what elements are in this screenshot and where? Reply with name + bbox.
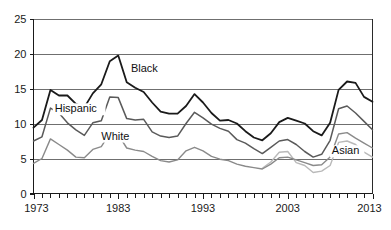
y-tick-labels: 0510152025 (14, 13, 26, 200)
y-tick-label-20: 20 (14, 48, 26, 60)
series-label-asian: Asian (332, 144, 360, 156)
y-tick-label-5: 5 (20, 153, 26, 165)
series-line-white (34, 133, 373, 169)
y-tick-label-25: 25 (14, 13, 26, 25)
x-tick-label-1973: 1973 (24, 202, 48, 214)
line-chart: 0510152025 19731983199320032013 BlackHis… (0, 0, 391, 230)
y-tick-label-15: 15 (14, 83, 26, 95)
series-line-black (34, 56, 373, 141)
gridlines (34, 20, 373, 160)
series-label-white: White (101, 130, 129, 142)
x-tick-label-2003: 2003 (276, 202, 300, 214)
series-label-hispanic: Hispanic (55, 102, 98, 114)
x-tick-labels: 19731983199320032013 (24, 202, 381, 214)
x-tick-label-1993: 1993 (191, 202, 215, 214)
y-tick-label-0: 0 (20, 188, 26, 200)
series-label-black: Black (131, 62, 158, 74)
x-tick-label-2013: 2013 (357, 202, 381, 214)
chart-page: 0510152025 19731983199320032013 BlackHis… (0, 0, 391, 230)
x-tick-label-1983: 1983 (106, 202, 130, 214)
y-tick-label-10: 10 (14, 118, 26, 130)
